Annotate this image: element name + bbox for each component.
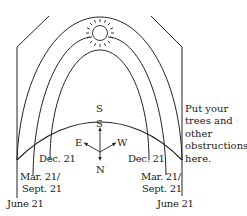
june-21-left-label: June 21 — [7, 198, 44, 209]
compass-arrows — [84, 127, 117, 161]
sun-icon — [86, 19, 114, 47]
mar-21-right-label: Mar. 21/ — [141, 171, 181, 182]
compass-east-label: E — [75, 137, 82, 148]
note-line: here. — [185, 153, 247, 165]
note-line: Put your — [185, 103, 247, 115]
note-line: other — [185, 128, 247, 140]
compass-west-label: W — [117, 137, 127, 148]
compass-south-label: S — [96, 118, 103, 129]
june-21-right-label: June 21 — [157, 198, 194, 209]
sept-21-left-label: Sept. 21 — [22, 183, 62, 194]
compass-south-label-top: S — [96, 103, 103, 114]
obstructions-note: Put your trees and other obstructions he… — [185, 103, 247, 165]
dec-21-right-label: Dec. 21 — [128, 153, 165, 164]
dec-21-left-label: Dec. 21 — [39, 153, 76, 164]
right-boundary-line — [151, 16, 182, 196]
sept-21-right-label: Sept. 21 — [142, 183, 182, 194]
note-line: trees and — [185, 115, 247, 127]
note-line: obstructions — [185, 140, 247, 152]
mar-21-left-label: Mar. 21/ — [20, 171, 60, 182]
compass-north-label: N — [96, 164, 104, 175]
